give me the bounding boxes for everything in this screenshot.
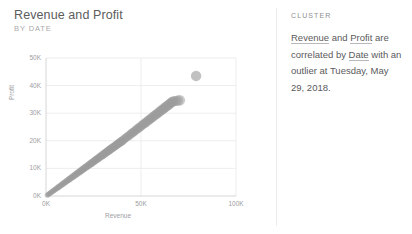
y-axis-tick: 20K bbox=[13, 137, 41, 144]
y-axis-tick: 30K bbox=[13, 109, 41, 116]
x-axis-tick: 0K bbox=[26, 200, 66, 207]
insight-card: Revenue and Profit BY DATE Profit Revenu… bbox=[0, 0, 412, 234]
insight-narrative-panel: CLUSTER Revenue and Profit are correlate… bbox=[277, 0, 412, 234]
y-axis-tick: 10K bbox=[13, 164, 41, 171]
field-ref-revenue[interactable]: Revenue bbox=[291, 32, 329, 44]
y-axis-tick: 50K bbox=[13, 54, 41, 61]
y-axis-tick: 40K bbox=[13, 82, 41, 89]
field-ref-date[interactable]: Date bbox=[349, 49, 369, 61]
insight-body: Revenue and Profit are correlated by Dat… bbox=[291, 30, 402, 96]
scatter-plot-svg bbox=[0, 0, 277, 234]
scatter-visual-panel[interactable]: Revenue and Profit BY DATE Profit Revenu… bbox=[0, 0, 277, 234]
insight-header: CLUSTER bbox=[291, 12, 402, 19]
plot-area[interactable]: Profit Revenue 0K10K20K30K40K50K0K50K100… bbox=[0, 0, 277, 234]
x-axis-tick: 50K bbox=[121, 200, 161, 207]
x-axis-tick: 100K bbox=[216, 200, 256, 207]
y-axis-tick: 0K bbox=[13, 192, 41, 199]
insight-conjunction: and bbox=[329, 32, 350, 43]
field-ref-profit[interactable]: Profit bbox=[350, 32, 372, 44]
